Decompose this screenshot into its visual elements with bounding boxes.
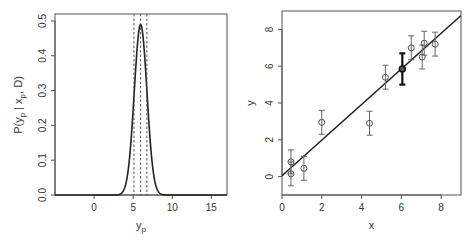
y-tick-label: 0.4 (37, 48, 48, 62)
y-tick-label: 0 (264, 173, 275, 179)
fit-line (282, 16, 461, 176)
y-axis-label: P(yp | xp, D) (12, 76, 27, 134)
prediction-point (399, 66, 405, 72)
x-axis-label: x (369, 219, 375, 231)
x-tick-label: 6 (399, 202, 405, 213)
x-tick-label: 4 (359, 202, 365, 213)
y-tick-label: 0.1 (37, 153, 48, 167)
x-tick-label: 5 (130, 202, 136, 213)
chart-figure: 0510150.00.10.20.30.40.5ypP(yp | xp, D) … (0, 0, 475, 242)
x-tick-label: 2 (319, 202, 325, 213)
y-tick-label: 6 (264, 63, 275, 69)
y-tick-label: 0.3 (37, 83, 48, 97)
x-tick-label: 15 (206, 202, 218, 213)
right-panel-regression: 0246802468xy (244, 11, 461, 231)
y-tick-label: 8 (264, 26, 275, 32)
x-tick-label: 0 (279, 202, 285, 213)
y-tick-label: 2 (264, 137, 275, 143)
x-axis-label: yp (136, 219, 147, 234)
left-panel-density: 0510150.00.10.20.30.40.5ypP(yp | xp, D) (12, 14, 227, 234)
x-tick-label: 10 (167, 202, 179, 213)
y-axis-label: y (244, 100, 256, 106)
y-tick-label: 0.2 (37, 118, 48, 132)
y-tick-label: 4 (264, 100, 275, 106)
x-tick-label: 0 (91, 202, 97, 213)
y-tick-label: 0.5 (37, 14, 48, 28)
y-tick-label: 0.0 (37, 188, 48, 202)
x-tick-label: 8 (438, 202, 444, 213)
